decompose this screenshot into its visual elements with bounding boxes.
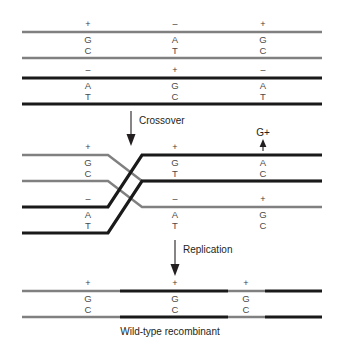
base-letter: G: [171, 80, 178, 91]
base-letter: C: [85, 45, 92, 56]
base-letter: G: [84, 34, 91, 45]
allele-marker: –: [85, 194, 90, 204]
base-letter: A: [172, 34, 179, 45]
figure-caption: Wild-type recombinant: [120, 326, 220, 337]
base-letter: G: [171, 293, 178, 304]
base-letter: C: [85, 304, 92, 315]
crossover-step-label: Crossover: [139, 115, 185, 126]
base-letter: A: [172, 209, 179, 220]
base-letter: C: [85, 168, 92, 179]
base-letter: G: [242, 293, 249, 304]
base-letter: T: [172, 220, 178, 231]
base-letter: C: [243, 304, 250, 315]
arrow-head: [260, 139, 267, 147]
allele-marker: +: [85, 142, 90, 152]
allele-marker: +: [260, 194, 265, 204]
base-letter: A: [85, 80, 92, 91]
base-letter: A: [260, 157, 267, 168]
base-letter: T: [172, 45, 178, 56]
recombinant-duplex: + G C + G C + G C: [22, 278, 322, 317]
recombination-figure: + G C – A T + G C – A T + G C – A T: [0, 0, 341, 344]
arrow-head: [171, 264, 180, 276]
base-letter: C: [260, 168, 267, 179]
base-letter: A: [260, 80, 267, 91]
base-letter: A: [85, 209, 92, 220]
replication-step-arrow: Replication: [171, 240, 233, 276]
parental-black-duplex: – A T + G C – A T: [22, 65, 322, 104]
base-letter: G: [259, 34, 266, 45]
crossover-step-arrow: Crossover: [127, 111, 186, 146]
allele-marker: +: [85, 19, 90, 29]
allele-marker: +: [85, 278, 90, 288]
base-letter: G: [84, 293, 91, 304]
allele-marker: +: [260, 19, 265, 29]
base-letter: G: [171, 157, 178, 168]
base-letter: C: [260, 45, 267, 56]
allele-marker: –: [172, 194, 177, 204]
crossover-stage: + G C – A T + G T A C – A T + G C G+: [22, 127, 322, 233]
base-letter: T: [260, 91, 266, 102]
base-letter: C: [260, 220, 267, 231]
parental-gray-duplex: + G C – A T + G C: [22, 19, 322, 58]
base-letter: T: [85, 91, 91, 102]
base-letter: C: [172, 91, 179, 102]
base-letter: C: [172, 304, 179, 315]
g-plus-label: G+: [256, 127, 270, 138]
dna-recombination-diagram: + G C – A T + G C – A T + G C – A T: [0, 0, 341, 344]
replication-step-label: Replication: [183, 244, 232, 255]
allele-marker: +: [172, 65, 177, 75]
allele-marker: –: [172, 19, 177, 29]
allele-marker: –: [260, 65, 265, 75]
base-letter: T: [172, 168, 178, 179]
base-letter: G: [259, 209, 266, 220]
g-plus-annotation: G+: [256, 127, 270, 151]
base-letter: G: [84, 157, 91, 168]
allele-marker: +: [172, 278, 177, 288]
base-letter: T: [85, 220, 91, 231]
arrow-head: [127, 134, 136, 146]
allele-marker: +: [243, 278, 248, 288]
allele-marker: +: [172, 142, 177, 152]
allele-marker: –: [85, 65, 90, 75]
